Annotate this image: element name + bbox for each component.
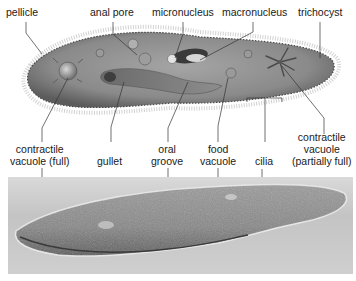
label-contractile-vacuole-full: contractile vacuole (full) [10,143,70,167]
label-macronucleus: macronucleus [222,6,287,18]
label-anal-pore: anal pore [90,6,134,18]
label-oral-groove: oral groove [151,143,183,167]
label-trichocyst: trichocyst [298,6,342,18]
label-contractile-vacuole-partial: contractile vacuole (partially full) [292,131,352,167]
label-cilia: cilia [255,155,273,167]
micronucleus-shape [168,55,177,64]
label-micronucleus: micronucleus [152,6,214,18]
contractile-vacuole-full-shape [59,62,77,80]
label-gullet: gullet [97,155,122,167]
label-pellicle: pellicle [6,6,38,18]
paramecium-micrograph [8,177,353,274]
label-food-vacuole: food vacuole [200,143,236,167]
gullet-shape [104,72,116,82]
